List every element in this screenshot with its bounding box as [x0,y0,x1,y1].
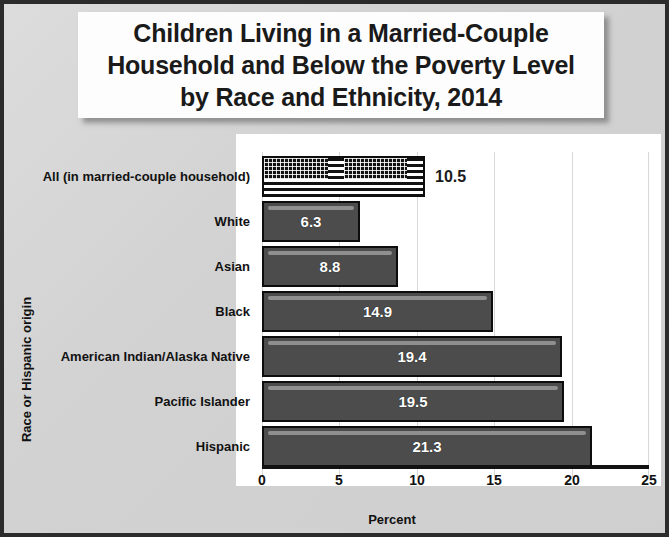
bar-sheen [268,296,487,300]
table-row: 10.5 [262,156,662,197]
bar-white[interactable]: 6.3 [262,201,360,242]
x-tick-25: 25 [641,472,657,488]
table-row: 19.5 [262,381,662,422]
bar-sheen [268,386,558,390]
bar-value-label: 14.9 [363,303,392,320]
bar-black[interactable]: 14.9 [262,291,493,332]
bar-value-label: 8.8 [320,258,341,275]
category-label-pacific-islander: Pacific Islander [12,381,250,422]
bar-sheen [268,431,586,435]
table-row: 21.3 [262,426,662,467]
x-tick-20: 20 [564,472,580,488]
chart-title-line-2: Household and Below the Poverty Level [107,49,575,81]
x-tick-0: 0 [258,472,266,488]
chart-container: Children Living in a Married-Couple Hous… [0,0,669,537]
table-row: 14.9 [262,291,662,332]
flag-canton-icon [264,158,328,179]
bar-sheen [268,206,354,210]
chart-title-plaque: Children Living in a Married-Couple Hous… [78,12,604,118]
bar-value-label: 6.3 [301,213,322,230]
bar-all-in-married-couple-household[interactable] [262,156,425,197]
bar-sheen [268,251,392,255]
bar-value-label: 19.4 [397,348,426,365]
bar-pacific-islander[interactable]: 19.5 [262,381,564,422]
category-label-asian: Asian [12,246,250,287]
x-tick-5: 5 [335,472,343,488]
bar-asian[interactable]: 8.8 [262,246,398,287]
table-row: 8.8 [262,246,662,287]
table-row: 6.3 [262,201,662,242]
category-label-hispanic: Hispanic [12,426,250,467]
x-axis-line [262,465,649,469]
category-label-american-indian-alaska-native: American Indian/Alaska Native [12,336,250,377]
plot-frame: Race or Hispanic origin 10.5 All (in mar… [4,126,665,533]
bar-sheen [268,341,556,345]
x-tick-10: 10 [409,472,425,488]
category-label-black: Black [12,291,250,332]
x-tick-15: 15 [486,472,502,488]
bar-value-label: 19.5 [398,393,427,410]
flag-canton-repeat-icon [344,158,408,179]
bar-value-label: 21.3 [412,438,441,455]
table-row: 19.4 [262,336,662,377]
category-label-white: White [12,201,250,242]
chart-title-line-1: Children Living in a Married-Couple [133,17,548,49]
bar-hispanic[interactable]: 21.3 [262,426,592,467]
category-label-all: All (in married-couple household) [12,156,250,197]
x-axis-title: Percent [262,512,522,527]
bar-american-indian-alaska-native[interactable]: 19.4 [262,336,562,377]
bar-value-label: 10.5 [425,156,466,197]
chart-title-line-3: by Race and Ethnicity, 2014 [180,81,502,113]
